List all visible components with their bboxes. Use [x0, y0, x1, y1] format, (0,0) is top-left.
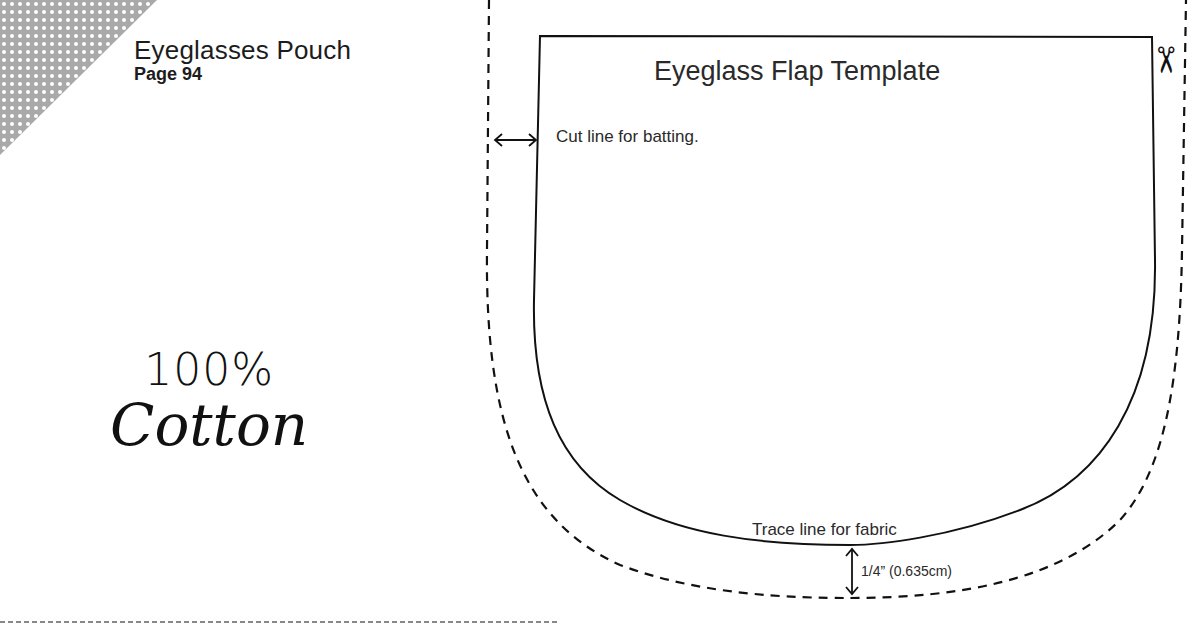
trace-line-label: Trace line for fabric: [752, 520, 897, 540]
seam-allowance-label: 1/4” (0.635cm): [861, 563, 952, 579]
batting-cut-line: [487, 0, 1186, 598]
flap-template-drawing: [0, 0, 1203, 624]
double-arrow-vertical-icon: [846, 549, 858, 594]
cut-line-label: Cut line for batting.: [556, 127, 699, 147]
template-title: Eyeglass Flap Template: [654, 56, 940, 87]
fabric-trace-line: [534, 36, 1155, 545]
double-arrow-horizontal-icon: [495, 134, 536, 146]
scissors-icon: ✂: [1145, 45, 1185, 75]
